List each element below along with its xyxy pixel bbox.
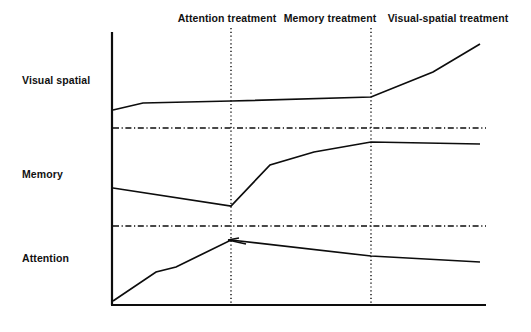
plot-canvas: [0, 0, 531, 332]
tier-label-attention: Attention: [22, 253, 69, 264]
series-line-memory: [113, 142, 480, 206]
phase-dividers-group: [231, 28, 371, 305]
tier-label-memory: Memory: [22, 169, 63, 180]
phase-label-visual-spatial: Visual-spatial treatment: [372, 13, 524, 24]
series-group: [113, 44, 480, 301]
series-line-attention: [113, 240, 480, 301]
series-line-visual-spatial: [113, 44, 480, 110]
multiple-baseline-figure: Attention treatment Memory treatment Vis…: [0, 0, 531, 332]
tier-label-visual-spatial: Visual spatial: [22, 75, 90, 86]
